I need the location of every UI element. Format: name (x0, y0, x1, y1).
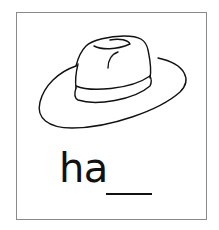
fill-in-blank[interactable] (106, 193, 152, 195)
word-prompt: ha (59, 143, 108, 193)
hat-icon (0, 0, 219, 230)
